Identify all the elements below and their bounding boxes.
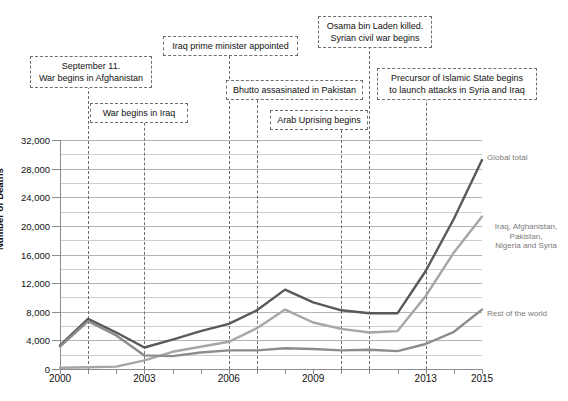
annotation-islamic-state: Precursor of Islamic State begins to lau… — [377, 68, 537, 100]
series-label-2: Rest of the world — [487, 309, 565, 319]
annotation-sept-11: September 11. War begins in Afghanistan — [30, 56, 152, 88]
annotation-bhutto: Bhutto assasinated in Pakistan — [226, 80, 363, 100]
series-label-1: Iraq, Afghanistan, Pakistan, Nigeria and… — [486, 222, 566, 251]
annotation-arab-uprising: Arab Uprising begins — [270, 110, 368, 130]
annotation-iraq-pm: Iraq prime minister appointed — [163, 36, 298, 56]
terrorism-deaths-line-chart: Number of Deaths 04,0008,00012,00016,000… — [0, 0, 568, 401]
series-label-0: Global total — [487, 153, 563, 163]
annotation-war-iraq: War begins in Iraq — [90, 103, 188, 123]
annotation-bin-laden: Osama bin Laden killed. Syrian civil war… — [318, 16, 432, 48]
series-line — [60, 310, 482, 357]
